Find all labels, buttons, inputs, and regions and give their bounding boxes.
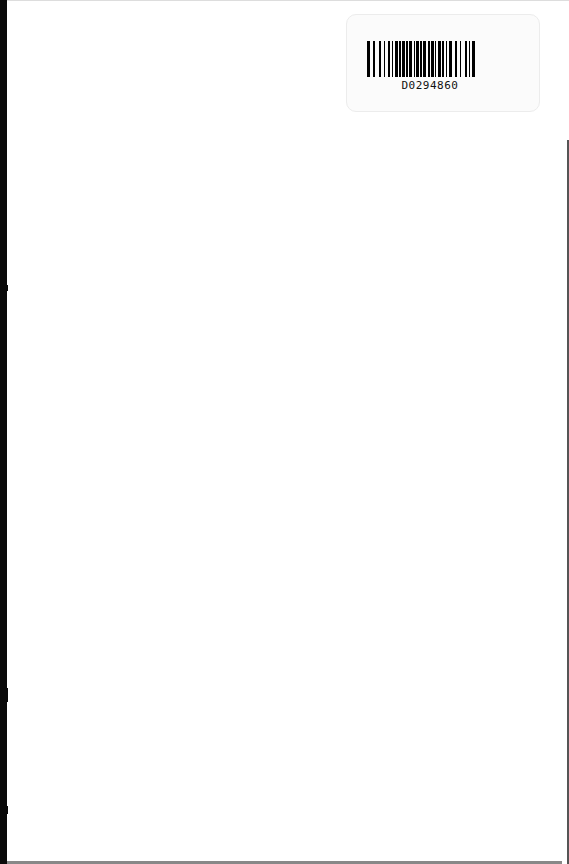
barcode-icon bbox=[367, 41, 513, 77]
scanned-page: D0294860 bbox=[0, 0, 569, 864]
barcode-number: D0294860 bbox=[347, 79, 513, 92]
barcode-label: D0294860 bbox=[346, 14, 540, 112]
spine-mark bbox=[5, 806, 8, 814]
spine-mark bbox=[5, 688, 8, 702]
spine-mark bbox=[5, 285, 8, 291]
page-top-edge bbox=[7, 0, 569, 1]
binding-spine bbox=[0, 0, 7, 864]
